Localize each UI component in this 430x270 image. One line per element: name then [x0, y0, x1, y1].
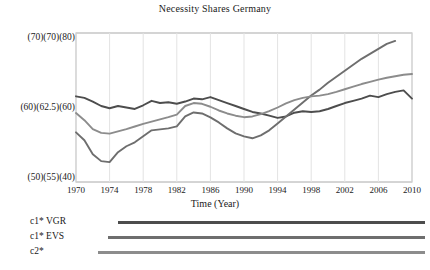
x-tick-label: 1982	[168, 185, 186, 195]
legend-item[interactable]: c1* VGR	[0, 216, 430, 231]
chart-legend: c1* VGRc1* EVSc2*	[0, 216, 430, 261]
y-tick-label: (80)	[59, 32, 75, 42]
legend-label: c1* VGR	[30, 216, 66, 226]
x-tick-label: 1970	[67, 185, 85, 195]
y-axis-ticks-middle: (60)(62.5)(60)	[20, 102, 75, 112]
legend-color-swatch	[98, 251, 425, 254]
x-tick-label: 1994	[269, 185, 287, 195]
legend-label: c2*	[30, 246, 44, 256]
x-tick-label: 1990	[235, 185, 253, 195]
x-tick-label: 1998	[302, 185, 320, 195]
legend-item[interactable]: c2*	[0, 246, 430, 261]
y-tick-label: (60)	[20, 102, 36, 112]
y-tick-label: (50)	[28, 172, 44, 182]
x-tick-label: 1974	[101, 185, 119, 195]
y-tick-label: (55)	[43, 172, 59, 182]
x-tick-label: 2006	[369, 185, 387, 195]
x-tick-label: 1978	[134, 185, 152, 195]
y-tick-label: (60)	[59, 102, 75, 112]
y-axis-ticks-bottom: (50)(55)(40)	[28, 172, 75, 182]
chart-figure: Necessity Shares Germany (70)(70)(80) (6…	[0, 0, 430, 270]
x-tick-label: 1986	[201, 185, 219, 195]
y-tick-label: (70)	[28, 32, 44, 42]
legend-label: c1* EVS	[30, 231, 64, 241]
y-axis-ticks-top: (70)(70)(80)	[28, 32, 75, 42]
y-tick-label: (40)	[59, 172, 75, 182]
x-axis-label: Time (Year)	[0, 198, 430, 209]
y-tick-label: (62.5)	[36, 102, 59, 112]
legend-color-swatch	[108, 236, 425, 239]
x-tick-label: 2002	[336, 185, 354, 195]
legend-item[interactable]: c1* EVS	[0, 231, 430, 246]
legend-color-swatch	[118, 221, 425, 224]
x-tick-label: 2010	[403, 185, 421, 195]
y-tick-label: (70)	[43, 32, 59, 42]
